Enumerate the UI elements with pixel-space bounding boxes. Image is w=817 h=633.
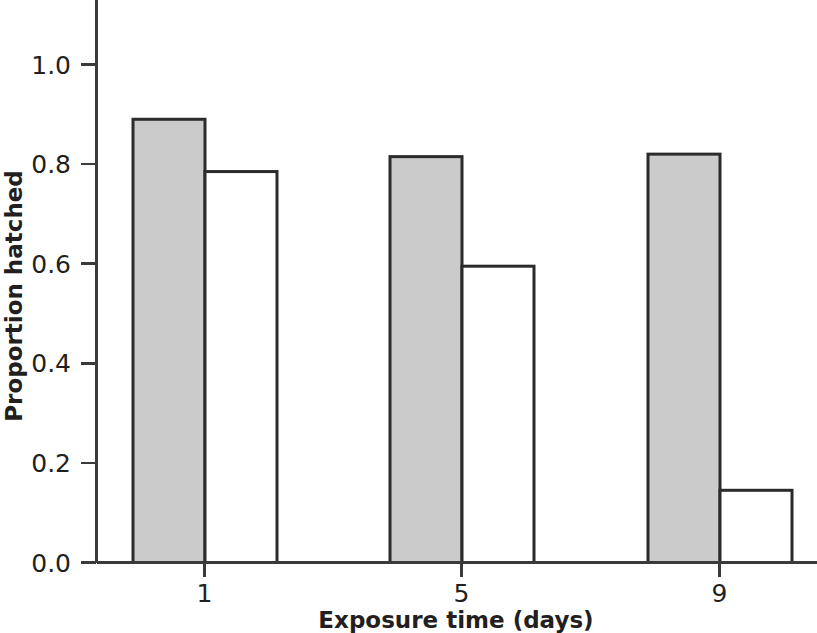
y-axis-title: Proportion hatched [1, 170, 27, 422]
chart-canvas: 0.00.20.40.60.81.0 159 Exposure time (da… [0, 0, 817, 633]
y-tick-label: 0.0 [31, 549, 71, 578]
bar-filled-1 [133, 119, 205, 562]
y-tick-label: 0.8 [31, 150, 71, 179]
x-tick-label: 9 [712, 579, 728, 608]
bar-filled-5 [390, 157, 462, 563]
bar-group [648, 154, 792, 562]
y-tick-label: 0.2 [31, 449, 71, 478]
y-tick-label: 0.6 [31, 250, 71, 279]
x-axis-title: Exposure time (days) [318, 607, 593, 633]
bar-filled-9 [648, 154, 720, 562]
bar-open-1 [205, 172, 277, 563]
bar-group [133, 119, 277, 562]
bar-chart-figure: 0.00.20.40.60.81.0 159 Exposure time (da… [0, 0, 817, 633]
y-tick-label: 1.0 [31, 51, 71, 80]
y-tick-label: 0.4 [31, 349, 71, 378]
x-tick-label: 5 [454, 579, 470, 608]
bar-open-9 [720, 490, 792, 562]
bar-open-5 [462, 266, 534, 562]
y-axis-ticks: 0.00.20.40.60.81.0 [31, 51, 96, 578]
x-tick-label: 1 [197, 579, 213, 608]
bars-layer [133, 119, 792, 562]
x-axis-ticks: 159 [197, 563, 728, 609]
bar-group [390, 157, 534, 563]
